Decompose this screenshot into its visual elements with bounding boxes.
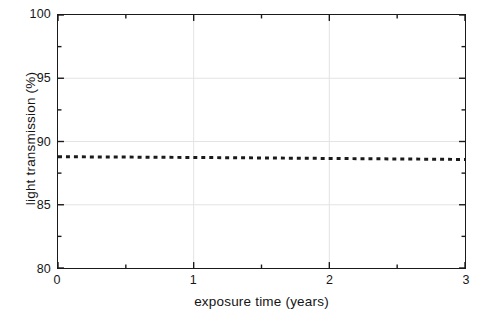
axis-ticks	[58, 15, 465, 268]
data-series-layer	[58, 15, 465, 268]
y-axis-tick-label: 85	[37, 199, 51, 212]
y-axis-tick-label: 95	[37, 72, 51, 85]
y-axis-tick-label: 80	[37, 263, 51, 276]
plot-area	[57, 14, 466, 269]
y-axis-title: light transmission (%)	[23, 24, 38, 254]
x-axis-tick-label: 1	[190, 274, 197, 287]
x-axis-tick-label: 2	[326, 274, 333, 287]
x-axis-tick-label: 0	[53, 274, 60, 287]
y-axis-tick-label: 90	[37, 135, 51, 148]
x-axis-title: exposure time (years)	[57, 294, 466, 309]
x-axis-tick-label: 3	[462, 274, 469, 287]
y-axis-tick-label: 100	[30, 8, 51, 21]
chart-figure: 80859095100 0123 exposure time (years) l…	[0, 0, 480, 322]
gridlines	[58, 15, 465, 268]
series-line	[58, 157, 465, 160]
x-axis-tick-labels: 0123	[57, 274, 466, 292]
